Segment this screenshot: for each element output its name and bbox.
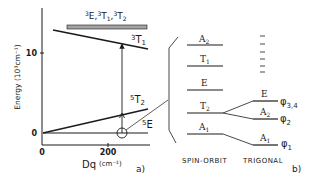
so-label-E: E	[201, 78, 208, 88]
panel-b: A2 T1 E T2 A1 E	[169, 34, 301, 174]
line-5T2	[43, 109, 148, 133]
trig-phi-2: φ2	[280, 113, 291, 127]
y-tick-label-0: 0	[31, 129, 37, 138]
column-label-trigonal: TRIGONAL	[242, 157, 283, 165]
split-A1-to-A1	[223, 134, 253, 145]
so-label-A1: A1	[198, 122, 209, 133]
upper-level-ticks	[260, 36, 265, 72]
so-label-A2: A2	[198, 34, 210, 45]
column-label-spin-orbit: SPIN-ORBIT	[182, 157, 227, 165]
x-axis-label: Dq	[82, 159, 96, 170]
label-5T2: 5T2	[130, 94, 145, 107]
so-label-T2: T2	[200, 101, 210, 112]
panel-b-label: b)	[292, 164, 301, 174]
hatched-band	[67, 25, 147, 29]
trig-label-E: E	[261, 89, 268, 99]
expansion-bracket	[169, 37, 178, 143]
label-3T1: 3T1	[131, 34, 146, 47]
trig-phi-1: φ1	[281, 138, 292, 152]
x-axis-unit: (cm⁻¹)	[99, 160, 122, 168]
label-5E: 5E	[142, 119, 153, 130]
trig-phi-34: φ3,4	[280, 96, 298, 110]
label-hatched-band: 3E,3T1,3T2	[85, 10, 127, 22]
y-tick-label-10: 10	[26, 49, 38, 58]
split-T2-to-E	[223, 101, 253, 113]
trig-label-A1: A1	[259, 133, 270, 144]
y-axis-label: Energy (10³cm⁻¹)	[13, 44, 22, 110]
split-T2-to-A2	[223, 113, 253, 119]
x-tick-label-200: 200	[100, 148, 117, 157]
panel-a-label: a)	[136, 164, 145, 174]
trig-label-A2: A2	[259, 107, 271, 118]
so-label-T1: T1	[200, 54, 210, 65]
x-tick-label-0: 0	[39, 148, 45, 157]
panel-a: 10 0 0 200 Energy (10³cm⁻¹) Dq (cm⁻¹) a)	[13, 8, 168, 174]
